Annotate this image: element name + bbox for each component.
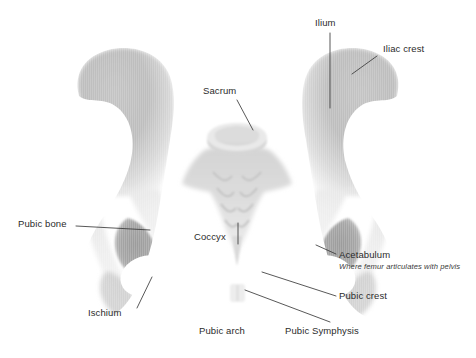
label-sacrum: Sacrum: [203, 86, 236, 97]
pelvis-anatomy-diagram: Ilium Iliac crest Sacrum Coccyx Pubic bo…: [0, 0, 476, 358]
pubic-symphysis-joint: [230, 284, 245, 302]
label-acetabulum-note: Where femur articulates with pelvis: [339, 263, 460, 272]
label-ilium: Ilium: [315, 18, 336, 29]
label-iliac-crest: Iliac crest: [383, 44, 424, 55]
label-pubic-bone: Pubic bone: [18, 219, 67, 230]
label-pubic-symphysis: Pubic Symphysis: [285, 326, 359, 337]
label-acetabulum: Acetabulum: [339, 250, 390, 261]
label-pubic-arch: Pubic arch: [199, 326, 245, 337]
label-coccyx: Coccyx: [194, 232, 226, 243]
label-ischium: Ischium: [88, 308, 121, 319]
label-pubic-crest: Pubic crest: [339, 291, 387, 302]
